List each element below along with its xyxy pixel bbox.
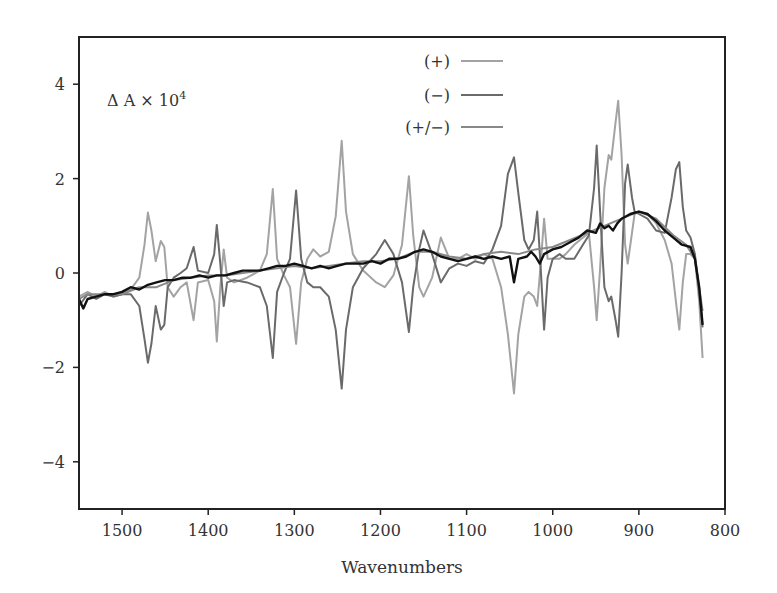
x-tick-label: 1400	[188, 521, 229, 540]
annotation-exponent: 4	[179, 89, 186, 102]
legend: (+)(−)(+/−)	[405, 52, 503, 137]
y-tick-label: 2	[55, 170, 65, 189]
y-annotation: Δ A × 104	[107, 89, 186, 110]
x-axis-title: Wavenumbers	[341, 557, 463, 577]
x-tick-label: 1100	[446, 521, 487, 540]
series-line-1	[79, 146, 703, 389]
x-tick-label: 1200	[360, 521, 401, 540]
x-tick-label: 900	[624, 521, 655, 540]
x-axis: 150014001300120011001000900800	[102, 509, 741, 540]
annotation-prefix: Δ A × 10	[107, 91, 179, 110]
legend-label: (−)	[424, 86, 450, 105]
x-tick-label: 1000	[532, 521, 573, 540]
y-tick-label: −4	[41, 453, 65, 472]
y-axis: 420−2−4	[41, 75, 79, 472]
legend-label: (+/−)	[405, 118, 450, 137]
legend-label: (+)	[424, 52, 450, 71]
y-tick-label: 4	[55, 75, 65, 94]
y-tick-label: −2	[41, 358, 65, 377]
series-layer	[79, 101, 703, 394]
series-line-0	[79, 101, 703, 394]
y-tick-label: 0	[55, 264, 65, 283]
series-line-3	[79, 212, 703, 325]
chart: 150014001300120011001000900800 420−2−4 W…	[0, 0, 777, 593]
x-tick-label: 1300	[274, 521, 315, 540]
svg-text:Δ A × 104: Δ A × 104	[107, 89, 186, 110]
x-tick-label: 800	[710, 521, 741, 540]
x-tick-label: 1500	[102, 521, 143, 540]
